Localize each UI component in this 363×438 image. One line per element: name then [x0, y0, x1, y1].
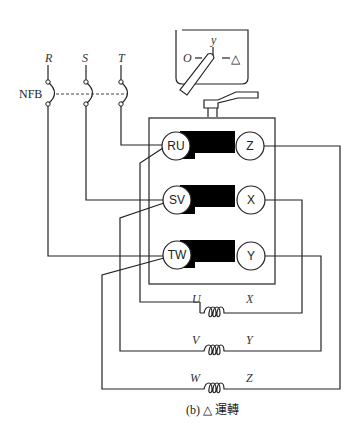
switch-pos-star: y — [210, 33, 217, 47]
wire-tw-to-w — [102, 258, 200, 389]
wire-s-to-sv — [86, 106, 170, 200]
wire-sv-to-v — [120, 203, 200, 351]
winding-label-x: X — [245, 292, 254, 306]
winding-label-z: Z — [246, 371, 253, 385]
svg-text:Z: Z — [246, 139, 253, 153]
terminal-ru[interactable]: RU — [162, 132, 190, 160]
svg-text:X: X — [247, 193, 255, 207]
switch-pos-off: O — [183, 51, 192, 65]
winding-label-y: Y — [246, 333, 254, 347]
terminal-tw[interactable]: TW — [163, 241, 191, 269]
nfb-label: NFB — [19, 87, 42, 101]
svg-text:RU: RU — [167, 139, 184, 153]
winding-wz — [200, 383, 238, 393]
figure-caption: (b) △ 運轉 — [186, 403, 239, 417]
switch-pos-delta: △ — [231, 52, 241, 66]
svg-text:SV: SV — [169, 193, 185, 207]
terminal-sv[interactable]: SV — [163, 186, 191, 214]
winding-label-w: W — [190, 371, 201, 385]
phase-label-s: S — [82, 51, 88, 65]
svg-text:Y: Y — [247, 249, 255, 263]
terminal-x[interactable]: X — [237, 186, 265, 214]
breaker-nfb — [46, 65, 128, 106]
svg-text:TW: TW — [168, 248, 187, 262]
terminal-z[interactable]: Z — [236, 132, 264, 160]
phase-label-r: R — [44, 51, 53, 65]
winding-ux — [200, 302, 238, 317]
wire-t-to-ru — [121, 106, 170, 145]
winding-label-v: V — [192, 333, 201, 347]
terminal-y[interactable]: Y — [237, 242, 265, 270]
switch-lever — [204, 92, 258, 117]
winding-label-u: U — [192, 292, 202, 306]
star-delta-wiring-diagram: R S T NFB O y △ — [0, 0, 363, 438]
winding-vy — [200, 345, 238, 355]
phase-label-t: T — [118, 51, 126, 65]
wire-r-to-tw — [48, 106, 170, 256]
